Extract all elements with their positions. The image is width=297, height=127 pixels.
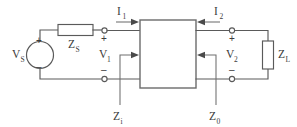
- label-source-sub: S: [21, 55, 25, 64]
- wire-source-to-zs: [40, 30, 58, 42]
- current1-arrowhead: [131, 19, 139, 25]
- impedance-zs-body: [58, 25, 93, 36]
- current2-arrowhead: [197, 19, 205, 25]
- output-impedance-arrowhead: [197, 52, 205, 58]
- input-impedance-arrowhead: [131, 52, 139, 58]
- label-zs-base: Z: [68, 38, 75, 50]
- label-zi-base: Z: [113, 110, 120, 122]
- label-v1-sub: 1: [107, 55, 111, 64]
- wire-port2-top-to-zl: [235, 31, 268, 42]
- circuit-svg: V S + – Z S + V 1 – + V 2 – Z L I 1 I 2 …: [0, 0, 297, 127]
- source-minus-sign: –: [36, 61, 42, 72]
- port2-minus-sign: –: [229, 64, 235, 75]
- impedance-zl-body: [263, 41, 274, 69]
- label-zl-sub: L: [286, 55, 291, 64]
- label-zl-base: Z: [278, 48, 285, 60]
- input-impedance-leader: [120, 55, 132, 105]
- terminal-port1-bottom: [102, 76, 107, 81]
- output-impedance-leader: [204, 55, 216, 105]
- port2-plus-sign: +: [229, 33, 235, 44]
- label-i1-base: I: [117, 5, 121, 17]
- two-port-network-box: [140, 20, 196, 88]
- circuit-diagram: V S + – Z S + V 1 – + V 2 – Z L I 1 I 2 …: [0, 0, 297, 127]
- port1-plus-sign: +: [101, 33, 107, 44]
- wire-zl-to-port2-bottom: [235, 69, 268, 79]
- label-zs-sub: S: [76, 45, 80, 54]
- label-zi-sub: i: [121, 117, 123, 126]
- label-i2-base: I: [214, 5, 218, 17]
- terminal-port2-bottom: [229, 76, 234, 81]
- wire-source-bottom-rail: [40, 69, 103, 80]
- source-plus-sign: +: [36, 35, 42, 46]
- label-i2-sub: 2: [220, 12, 224, 21]
- label-i1-sub: 1: [123, 12, 127, 21]
- label-zo-base: Z: [209, 110, 216, 122]
- label-v2-sub: 2: [234, 55, 238, 64]
- port1-minus-sign: –: [101, 64, 107, 75]
- label-zo-sub: 0: [217, 117, 221, 126]
